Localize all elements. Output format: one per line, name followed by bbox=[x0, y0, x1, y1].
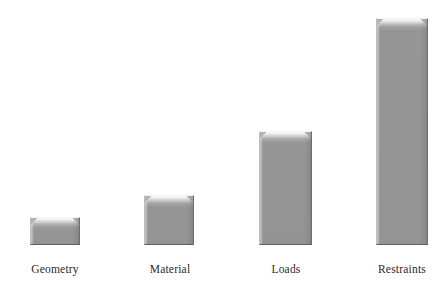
bar-material[interactable] bbox=[144, 195, 194, 245]
bar-chamfer-right-icon bbox=[186, 196, 193, 203]
plot-area: Geometry Material Loads Restraints bbox=[0, 0, 448, 295]
bar-chamfer-left-icon bbox=[145, 196, 152, 203]
x-axis-label-material: Material bbox=[115, 262, 225, 276]
bar-chamfer-right-icon bbox=[304, 132, 311, 139]
bar-chamfer-left-icon bbox=[260, 132, 267, 139]
bar-geometry[interactable] bbox=[30, 217, 80, 245]
bar-chamfer-left-icon bbox=[31, 218, 38, 225]
bar-chamfer-right-icon bbox=[72, 218, 79, 225]
x-axis-label-geometry: Geometry bbox=[0, 262, 110, 276]
bar-restraints[interactable] bbox=[376, 18, 428, 245]
bar-chamfer-right-icon bbox=[420, 19, 427, 26]
bar-chart: Geometry Material Loads Restraints bbox=[0, 0, 448, 295]
x-axis-label-restraints: Restraints bbox=[347, 262, 448, 276]
bar-chamfer-left-icon bbox=[377, 19, 384, 26]
x-axis-label-loads: Loads bbox=[231, 262, 341, 276]
bar-loads[interactable] bbox=[259, 131, 312, 245]
